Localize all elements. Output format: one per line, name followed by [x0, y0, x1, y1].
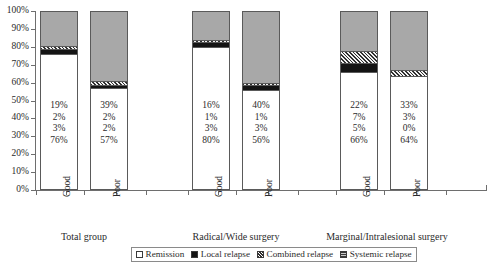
y-axis-tick-mark — [31, 65, 35, 66]
y-axis-tick-label: 50% — [12, 96, 29, 106]
bar-radical-wide-surgery-poor[interactable] — [242, 11, 280, 190]
segment-remission — [391, 76, 427, 189]
legend-item[interactable]: Remission — [136, 250, 184, 259]
bar-marginal-intralesional-surgery-good[interactable] — [340, 11, 378, 190]
y-axis-tick-mark — [31, 154, 35, 155]
y-axis-tick-mark — [31, 190, 35, 191]
x-axis-tick-mark — [84, 191, 85, 195]
y-axis-tick-mark — [31, 101, 35, 102]
group-label: Marginal/Intralesional surgery — [297, 231, 477, 242]
bar-marginal-intralesional-surgery-poor[interactable] — [390, 11, 428, 190]
bar-total-group-poor[interactable] — [90, 11, 128, 190]
y-axis-tick-label: 70% — [12, 60, 29, 70]
x-axis-tick-mark — [188, 191, 189, 195]
y-axis-tick-mark — [31, 118, 35, 119]
systemic-relapse-swatch-icon — [340, 251, 347, 258]
segment-systemic-relapse — [391, 12, 427, 70]
y-axis-tick-label: 60% — [12, 78, 29, 88]
x-axis-tick-mark — [336, 191, 337, 195]
remission-swatch-icon — [136, 251, 143, 258]
y-axis-line — [35, 11, 36, 190]
segment-systemic-relapse — [41, 12, 77, 46]
stacked-bar-chart: 0%10%20%30%40%50%60%70%80%90%100% GoodPo… — [0, 0, 499, 274]
x-axis-tick-mark — [36, 191, 37, 195]
x-axis-category-label: Good — [363, 176, 373, 197]
y-axis-tick-mark — [31, 47, 35, 48]
y-axis: 0%10%20%30%40%50%60%70%80%90%100% — [0, 8, 33, 190]
x-axis-tick-mark — [446, 191, 447, 195]
x-axis-tick-mark — [384, 191, 385, 195]
y-axis-tick-mark — [31, 29, 35, 30]
segment-remission — [41, 54, 77, 189]
segment-remission — [341, 72, 377, 189]
y-axis-tick-label: 80% — [12, 42, 29, 52]
legend-item[interactable]: Combined relapse — [257, 250, 333, 259]
legend-label: Systemic relapse — [350, 250, 412, 259]
x-axis-tick-mark — [298, 191, 299, 195]
segment-combined-relapse — [341, 51, 377, 63]
y-axis-tick-label: 90% — [12, 24, 29, 34]
segment-remission — [91, 88, 127, 189]
segment-local-relapse — [341, 63, 377, 72]
x-axis-category-label: Poor — [413, 179, 423, 197]
segment-systemic-relapse — [243, 12, 279, 83]
x-axis-endcap — [486, 185, 487, 191]
legend-item[interactable]: Local relapse — [191, 250, 250, 259]
y-axis-tick-mark — [31, 11, 35, 12]
y-axis-tick-label: 100% — [7, 6, 29, 16]
local-relapse-swatch-icon — [191, 251, 198, 258]
chart-legend: RemissionLocal relapseCombined relapseSy… — [131, 247, 417, 262]
x-axis-category-label: Poor — [113, 179, 123, 197]
legend-label: Remission — [146, 250, 185, 259]
segment-systemic-relapse — [341, 12, 377, 51]
y-axis-tick-mark — [31, 136, 35, 137]
legend-item[interactable]: Systemic relapse — [340, 250, 412, 259]
y-axis-tick-label: 30% — [12, 131, 29, 141]
x-axis-category-label: Good — [63, 176, 73, 197]
x-axis-tick-mark — [236, 191, 237, 195]
legend-label: Combined relapse — [267, 250, 334, 259]
x-axis-category-label: Good — [215, 176, 225, 197]
segment-systemic-relapse — [91, 12, 127, 81]
bar-radical-wide-surgery-good[interactable] — [192, 11, 230, 190]
y-axis-tick-label: 40% — [12, 113, 29, 123]
bar-total-group-good[interactable] — [40, 11, 78, 190]
legend-label: Local relapse — [201, 250, 250, 259]
x-axis-tick-mark — [146, 191, 147, 195]
segment-remission — [243, 90, 279, 189]
y-axis-tick-label: 20% — [12, 149, 29, 159]
x-axis-category-label: Poor — [265, 179, 275, 197]
y-axis-tick-label: 10% — [12, 167, 29, 177]
segment-systemic-relapse — [193, 12, 229, 40]
y-axis-tick-mark — [31, 83, 35, 84]
combined-relapse-swatch-icon — [257, 251, 264, 258]
segment-remission — [193, 47, 229, 189]
y-axis-tick-label: 0% — [16, 185, 29, 195]
y-axis-tick-mark — [31, 172, 35, 173]
